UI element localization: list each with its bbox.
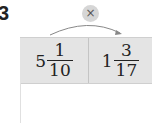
- whole-part: 1: [102, 51, 113, 71]
- mixed-number-cell: 1 3 17: [89, 38, 152, 83]
- answer-area-border: [20, 83, 21, 123]
- denominator: 17: [114, 62, 140, 79]
- fraction: 1 10: [47, 42, 73, 79]
- arrow-arc-icon: [0, 0, 152, 40]
- fraction: 3 17: [114, 42, 140, 79]
- whole-part: 5: [35, 51, 46, 71]
- numerator: 3: [119, 42, 134, 59]
- mixed-number-cell: 5 1 10: [20, 38, 89, 83]
- numerator: 1: [53, 42, 68, 59]
- denominator: 10: [47, 62, 73, 79]
- fraction-table: 5 1 10 1 3 17: [20, 37, 152, 84]
